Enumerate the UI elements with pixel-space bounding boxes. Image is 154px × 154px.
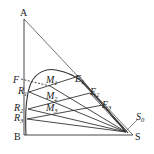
label-e3: E3 [101, 99, 112, 111]
label-m1: M1 [45, 74, 58, 86]
label-r1-sub: 1 [24, 90, 27, 97]
label-e1: E1 [74, 73, 84, 85]
label-r3-main: R [13, 112, 20, 123]
label-s0-sub: 0 [141, 116, 145, 123]
label-e1-main: E [74, 73, 81, 84]
label-m1-sub: 1 [54, 79, 57, 86]
label-m2: M2 [45, 90, 58, 102]
label-r2-sub: 2 [20, 107, 24, 114]
label-r1: R1 [17, 85, 27, 97]
label-f: F [12, 74, 20, 85]
label-r1-main: R [17, 85, 24, 96]
label-e2-main: E [89, 86, 96, 97]
label-a: A [20, 7, 28, 18]
label-e2-sub: 2 [96, 91, 100, 98]
label-e2: E2 [89, 86, 100, 98]
label-b: B [14, 131, 21, 142]
line-m1-s [50, 86, 126, 132]
label-e3-main: E [101, 99, 108, 110]
label-e1-sub: 1 [81, 78, 84, 85]
ternary-extraction-diagram: A B S F R1 R2 R3 M1 M2 M3 E1 E2 E3 S0 [0, 0, 154, 154]
label-r3-sub: 3 [19, 117, 24, 124]
line-r2-s [28, 109, 126, 132]
label-m3: M3 [45, 102, 58, 114]
label-s0: S0 [136, 111, 145, 123]
label-e3-sub: 3 [107, 104, 112, 111]
label-s: S [135, 131, 141, 142]
